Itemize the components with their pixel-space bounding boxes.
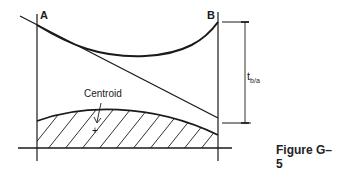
point-b-label: B xyxy=(207,9,215,21)
tangent-line-at-a xyxy=(20,16,218,118)
centroid-marker: + xyxy=(92,125,98,136)
deviation-label-subscript: b/a xyxy=(250,77,260,84)
figure-caption: Figure G–5 xyxy=(276,143,338,171)
point-a-label: A xyxy=(40,9,48,21)
deviation-label: tb/a xyxy=(247,70,260,84)
centroid-label: Centroid xyxy=(84,88,122,99)
moment-area-hatching xyxy=(13,100,240,150)
